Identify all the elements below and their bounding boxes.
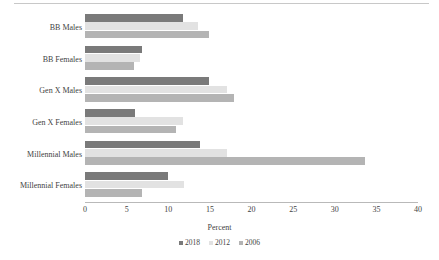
- legend-swatch-icon: [239, 241, 243, 245]
- legend-label: 2006: [245, 238, 260, 248]
- legend-label: 2018: [185, 238, 200, 248]
- tick-label: 35: [372, 204, 380, 216]
- category-label: Millennial Males: [2, 150, 82, 160]
- bar-2012: [85, 54, 140, 62]
- bar-2006: [85, 31, 209, 39]
- legend-swatch-icon: [179, 241, 183, 245]
- value-axis-ticks: 0510152025303540: [85, 204, 418, 218]
- bar-group: [85, 44, 418, 76]
- category-label: Gen X Females: [2, 118, 82, 128]
- bar-2012: [85, 86, 227, 94]
- tick-label: 0: [83, 204, 87, 216]
- bar-2012: [85, 181, 184, 189]
- tick-label: 20: [248, 204, 256, 216]
- category-label: Gen X Males: [2, 86, 82, 96]
- bar-2012: [85, 22, 198, 30]
- tick-label: 10: [164, 204, 172, 216]
- bar-2012: [85, 149, 227, 157]
- category-label: BB Females: [2, 55, 82, 65]
- tick-label: 40: [414, 204, 422, 216]
- bar-2018: [85, 77, 209, 85]
- legend-label: 2012: [215, 238, 230, 248]
- tick-label: 25: [289, 204, 297, 216]
- category-label: Millennial Females: [2, 181, 82, 191]
- value-axis-line: [85, 202, 418, 203]
- bar-group: [85, 75, 418, 107]
- bar-2006: [85, 157, 365, 165]
- bar-2018: [85, 109, 135, 117]
- x-axis-title: Percent: [0, 222, 439, 233]
- tick-label: 5: [125, 204, 129, 216]
- legend-swatch-icon: [209, 241, 213, 245]
- bar-2006: [85, 189, 142, 197]
- bar-2006: [85, 62, 134, 70]
- tick-label: 30: [331, 204, 339, 216]
- bar-2018: [85, 14, 183, 22]
- bar-2006: [85, 126, 176, 134]
- bar-group: [85, 12, 418, 44]
- plot-area: [85, 12, 418, 202]
- bar-2018: [85, 172, 168, 180]
- category-axis: BB MalesBB FemalesGen X MalesGen X Femal…: [0, 12, 82, 202]
- top-divider: [14, 3, 429, 4]
- bar-chart: BB MalesBB FemalesGen X MalesGen X Femal…: [0, 0, 439, 260]
- bar-group: [85, 170, 418, 202]
- tick-label: 15: [206, 204, 214, 216]
- bar-2018: [85, 46, 142, 54]
- bar-group: [85, 107, 418, 139]
- legend-entry: 2012: [209, 238, 230, 248]
- bar-2006: [85, 94, 234, 102]
- legend-entry: 2018: [179, 238, 200, 248]
- legend-entry: 2006: [239, 238, 260, 248]
- bar-2018: [85, 141, 200, 149]
- category-label: BB Males: [2, 23, 82, 33]
- bar-group: [85, 139, 418, 171]
- bar-2012: [85, 117, 183, 125]
- chart-legend: 201820122006: [0, 238, 439, 248]
